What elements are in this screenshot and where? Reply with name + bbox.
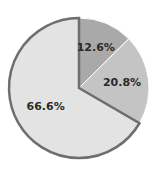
pie-label: 20.8% [103, 76, 141, 89]
pie-label: 66.6% [27, 100, 65, 113]
pie-label: 12.6% [77, 41, 115, 54]
pie-chart: 12.6%20.8%66.6% [0, 0, 158, 171]
